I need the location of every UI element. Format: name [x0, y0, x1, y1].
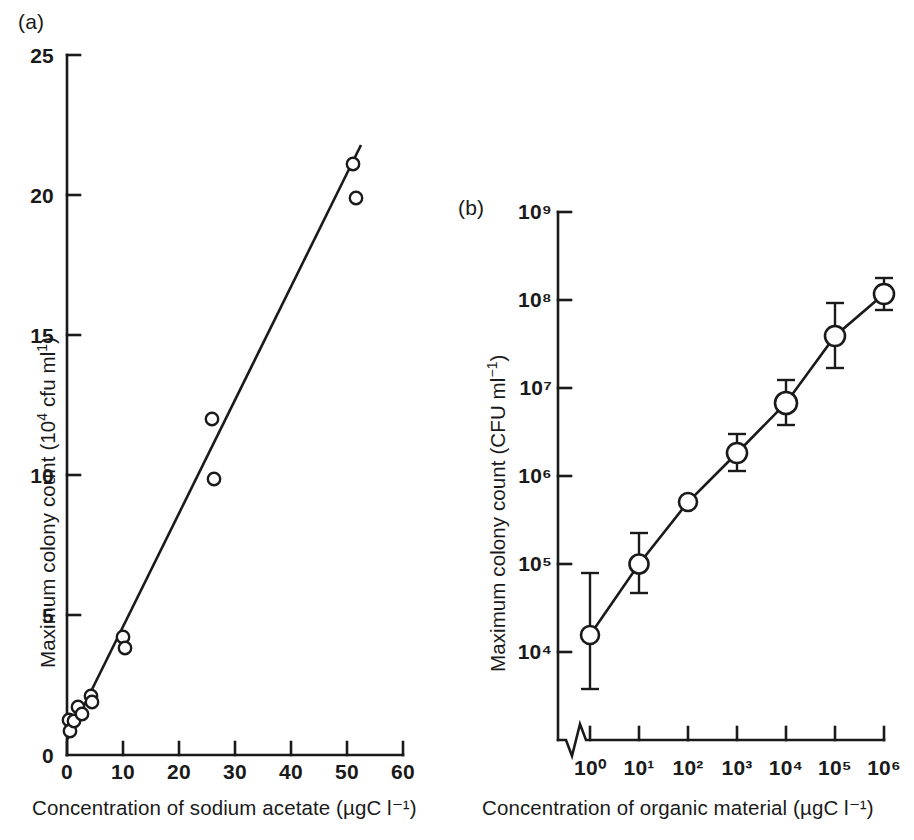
figure-container: (a) 25 20 15 10 5 0 0 10 20 30 40 50 60 … [0, 0, 914, 840]
panel-a-point [347, 158, 359, 170]
panel-a-point [206, 413, 218, 425]
panel-a: (a) 25 20 15 10 5 0 0 10 20 30 40 50 60 … [0, 0, 460, 840]
panel-a-point [86, 696, 98, 708]
panel-a-point [208, 473, 220, 485]
panel-b-point [679, 493, 697, 511]
panel-b-point [874, 284, 894, 304]
panel-b-point [825, 326, 845, 346]
panel-a-point [76, 708, 88, 720]
panel-b: (b) 10⁹ 10⁸ 10⁷ 10⁶ 10⁵ 10⁴ 10⁰ 10¹ 10² … [450, 0, 914, 840]
panel-b-point [775, 392, 797, 414]
panel-a-point [119, 642, 131, 654]
panel-a-point [350, 192, 362, 204]
panel-b-plot [450, 0, 914, 840]
panel-b-point [727, 443, 747, 463]
panel-b-point [581, 626, 599, 644]
panel-a-plot [0, 0, 460, 840]
panel-b-data-points [581, 284, 894, 644]
panel-b-error-bars [581, 278, 893, 689]
panel-b-point [630, 555, 649, 574]
panel-a-fit-line [67, 145, 361, 740]
